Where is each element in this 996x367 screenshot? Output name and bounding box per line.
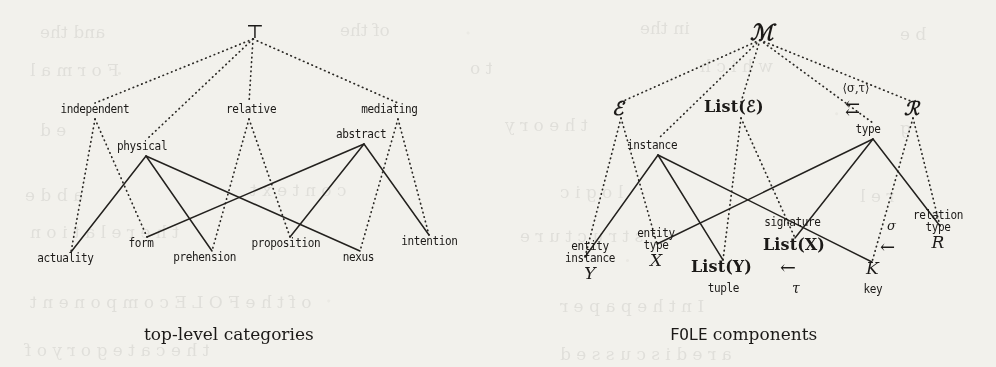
node-top-symbol: ⊤ (246, 22, 264, 42)
relation-type-line2: type (907, 222, 968, 234)
caption-fole-word: FOLE (670, 325, 707, 344)
right-diagram-panel: ℳ ℰ List(ℰ) ⇇ ℛ instance type signature … (498, 0, 996, 367)
entity-type-line2: type (631, 240, 681, 252)
tau-left-arrow-icon: ← (780, 258, 796, 278)
node-model-script-m: ℳ (750, 21, 774, 44)
node-mediating: mediating (361, 104, 417, 116)
node-abstract: abstract (336, 129, 386, 141)
entity-instance-symbol: Y (553, 265, 627, 283)
relation-type-symbol: R (906, 234, 970, 252)
entity-instance-line2: instance (554, 253, 625, 265)
node-instance: instance (627, 140, 677, 152)
node-list-of-y: List(Y) (691, 259, 752, 276)
node-double-left-arrows-icon: ⇇ (845, 99, 860, 118)
node-intention: intention (401, 236, 457, 248)
node-entity-type-x: entity type X (630, 228, 682, 270)
node-signature: signature (764, 217, 820, 229)
node-prehension: prehension (173, 252, 236, 264)
sigma-left-arrow-icon: ← (880, 238, 895, 257)
node-nexus: nexus (343, 252, 374, 264)
right-diagram-caption: FOLE components (670, 324, 817, 344)
node-key: key (863, 284, 882, 296)
node-list-of-script-e: List(ℰ) (704, 99, 764, 116)
node-key-symbol-k: K (866, 260, 879, 278)
entity-type-symbol: X (630, 252, 682, 270)
node-relation-type-r: relation type R (906, 210, 970, 252)
node-sigma-symbol: σ (887, 219, 896, 233)
node-entity-instance-y: entity instance Y (553, 241, 627, 283)
node-proposition: proposition (251, 238, 320, 250)
node-relation-classification-script-r: ℛ (904, 99, 919, 119)
node-physical: physical (117, 141, 167, 153)
node-form: form (129, 238, 154, 250)
node-relative: relative (226, 104, 276, 116)
node-actuality: actuality (37, 253, 93, 265)
node-tuple: tuple (708, 283, 739, 295)
node-independent: independent (60, 104, 129, 116)
edge-label-sigma-tau: ⟨σ,τ⟩ (843, 82, 870, 94)
node-tau-symbol: τ (792, 281, 800, 296)
left-diagram-caption: top-level categories (144, 324, 314, 344)
node-type: type (856, 124, 881, 136)
node-list-of-x: List(X) (763, 237, 825, 254)
node-entity-classification-script-e: ℰ (612, 99, 624, 119)
left-diagram-panel: ⊤ independent relative mediating physica… (0, 0, 498, 367)
caption-components-word: components (707, 324, 817, 344)
